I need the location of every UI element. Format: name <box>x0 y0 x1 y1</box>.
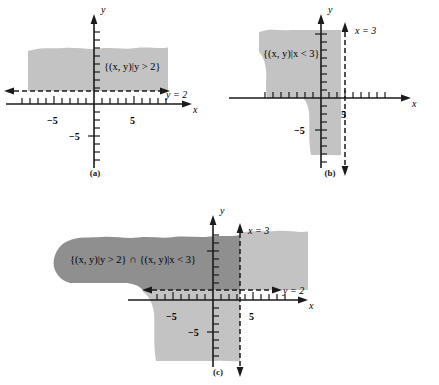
boundary-arrow-up <box>237 223 244 233</box>
x-tick-label-5: 5 <box>341 109 346 120</box>
x-tick-label-5: 5 <box>249 311 254 322</box>
panel-c: y x −5 5 −5 {(x, y)|y > 2} ∩ {(x, y)|x <… <box>40 195 350 385</box>
axis-label-x: x <box>308 300 314 311</box>
panel-a: y x −5 5 −5 {(x, y)|y > 2} y = 2 (a) <box>0 0 215 190</box>
x-tick-label-neg5: −5 <box>47 115 58 126</box>
y-axis-arrow <box>318 14 325 24</box>
y-axis-arrow <box>210 215 217 225</box>
axis-label-y: y <box>327 4 333 15</box>
region-y-greater-than-2-light <box>240 231 308 290</box>
panel-b: y x 5 −5 {(x, y)|x < 3} x = 3 (b) <box>215 0 439 190</box>
y-tick-label-neg5: −5 <box>188 327 199 338</box>
region-label-b: {(x, y)|x < 3} <box>263 48 320 60</box>
y-tick-label-neg5: −5 <box>69 131 80 142</box>
x-axis-arrow <box>401 95 411 102</box>
region-label-a: {(x, y)|y > 2} <box>104 61 161 73</box>
panel-a-plot: y x −5 5 −5 {(x, y)|y > 2} y = 2 <box>0 0 215 190</box>
axis-label-x: x <box>411 98 417 109</box>
boundary-label-y-equals-2: y = 2 <box>282 285 304 296</box>
x-axis-arrow <box>182 101 192 108</box>
y-axis-arrow <box>91 14 98 24</box>
boundary-label-y-equals-2: y = 2 <box>165 89 187 100</box>
panel-b-caption: (b) <box>310 168 350 178</box>
x-tick-label-5: 5 <box>130 115 135 126</box>
axis-label-y: y <box>219 205 225 216</box>
panel-b-plot: y x 5 −5 {(x, y)|x < 3} x = 3 <box>215 0 439 190</box>
figure-set-regions: y x −5 5 −5 {(x, y)|y > 2} y = 2 (a) <box>0 0 439 385</box>
boundary-arrow-up <box>342 22 349 32</box>
panel-c-plot: y x −5 5 −5 {(x, y)|y > 2} ∩ {(x, y)|x <… <box>40 195 350 385</box>
y-tick-label-neg5: −5 <box>294 125 305 136</box>
panel-c-caption: (c) <box>198 367 238 377</box>
panel-a-caption: (a) <box>75 168 115 178</box>
x-axis-arrow <box>298 297 308 304</box>
boundary-label-x-equals-3: x = 3 <box>354 25 376 36</box>
axis-label-x: x <box>192 104 198 115</box>
boundary-arrow-left <box>4 88 14 95</box>
boundary-label-x-equals-3: x = 3 <box>247 225 269 236</box>
x-tick-label-neg5: −5 <box>166 311 177 322</box>
region-label-c: {(x, y)|y > 2} ∩ {(x, y)|x < 3} <box>70 254 196 266</box>
axis-label-y: y <box>100 4 106 15</box>
